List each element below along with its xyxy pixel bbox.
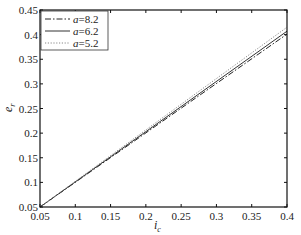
x-tick-label: 0.15 (101, 210, 121, 222)
y-tick-label: 0.15 (19, 152, 39, 164)
legend-label: a=5.2 (73, 37, 98, 49)
y-tick-label: 0.3 (24, 78, 38, 90)
y-tick-label: 0.4 (24, 29, 38, 41)
legend-label: a=8.2 (73, 13, 98, 25)
y-tick-label: 0.45 (19, 4, 39, 16)
line-chart: 0.050.10.150.20.250.30.350.4 0.050.10.15… (0, 0, 301, 235)
x-tick-label: 0.35 (242, 210, 262, 222)
series-line (40, 27, 287, 207)
x-tick-label: 0.2 (139, 210, 153, 222)
y-axis-label: er (1, 103, 17, 112)
legend: a=8.2a=6.2a=5.2 (41, 11, 108, 50)
legend-label: a=6.2 (73, 25, 98, 37)
x-axis-label: ic (154, 218, 161, 234)
y-tick-label: 0.1 (24, 176, 38, 188)
y-tick-label: 0.35 (19, 53, 39, 65)
x-tick-label: 0.25 (172, 210, 192, 222)
y-tick-label: 0.25 (19, 103, 39, 115)
plot-lines (40, 27, 287, 207)
y-tick-label: 0.05 (19, 201, 39, 213)
y-tick-label: 0.2 (24, 127, 38, 139)
x-tick-label: 0.4 (280, 210, 294, 222)
x-tick-label: 0.3 (210, 210, 224, 222)
x-tick-label: 0.1 (68, 210, 82, 222)
